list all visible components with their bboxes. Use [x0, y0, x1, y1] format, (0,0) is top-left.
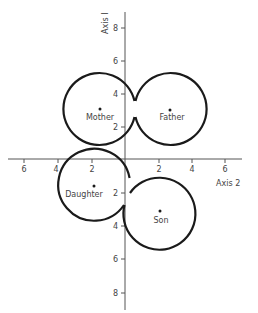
- tick-label-y-up-2: 2: [113, 123, 118, 132]
- tick-label-y-down-4: 4: [113, 222, 118, 231]
- family-circle-diagram: 6 4 2 2 4 6 Axis 2 8 6 4 2 2 4 6 8 Axis …: [0, 0, 258, 313]
- mother-label: Mother: [86, 113, 115, 122]
- tick-label-y-up-6: 6: [113, 57, 118, 66]
- axis-1-label: Axis I: [101, 13, 110, 35]
- tick-label-x-right-2: 2: [156, 165, 161, 174]
- mother-center-dot: [99, 108, 102, 111]
- axis-2-label: Axis 2: [216, 179, 240, 188]
- tick-label-x-left-4: 4: [53, 165, 58, 174]
- tick-label-y-up-8: 8: [113, 24, 118, 33]
- daughter-center-dot: [93, 185, 96, 188]
- father-label: Father: [159, 113, 185, 122]
- daughter-label: Daughter: [65, 190, 103, 199]
- father-center-dot: [169, 109, 172, 112]
- family-circles: [58, 73, 206, 250]
- tick-label-x-left-2: 2: [89, 165, 94, 174]
- son-circle: [123, 178, 195, 250]
- axes: 6 4 2 2 4 6 Axis 2 8 6 4 2 2 4 6 8 Axis …: [8, 12, 242, 310]
- tick-label-y-down-8: 8: [113, 289, 118, 298]
- tick-label-x-right-4: 4: [189, 165, 194, 174]
- son-center-dot: [159, 210, 162, 213]
- tick-label-x-left-6: 6: [21, 165, 26, 174]
- son-label: Son: [153, 216, 168, 225]
- tick-label-y-down-2: 2: [113, 189, 118, 198]
- tick-label-x-right-6: 6: [222, 165, 227, 174]
- tick-label-y-down-6: 6: [113, 255, 118, 264]
- tick-label-y-up-4: 4: [113, 90, 118, 99]
